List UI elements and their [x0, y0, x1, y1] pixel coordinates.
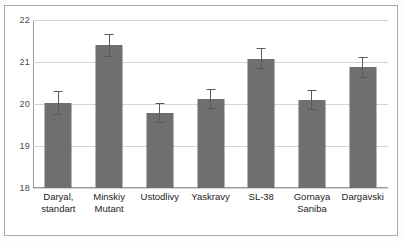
- bar-group[interactable]: [84, 20, 135, 188]
- error-bar-cap-top: [257, 48, 266, 49]
- bar-group[interactable]: [236, 20, 287, 188]
- y-tick-label-20: 20: [4, 99, 30, 109]
- bar[interactable]: [248, 59, 275, 188]
- error-bar: [105, 34, 114, 57]
- bar[interactable]: [146, 113, 173, 188]
- error-bar-stem: [261, 48, 262, 69]
- error-bar-cap-top: [54, 91, 63, 92]
- bar[interactable]: [96, 45, 123, 188]
- bar[interactable]: [197, 99, 224, 188]
- error-bar-cap-bottom: [307, 109, 316, 110]
- x-tick-label: GornayaSaniba: [287, 191, 338, 225]
- error-bar-stem: [311, 90, 312, 110]
- x-tick-label: Daryal,standart: [33, 191, 84, 225]
- bar[interactable]: [298, 100, 325, 188]
- error-bar: [155, 103, 164, 123]
- gridline-18: [33, 188, 388, 189]
- error-bar-cap-top: [105, 34, 114, 35]
- error-bar-stem: [58, 91, 59, 115]
- error-bar-cap-bottom: [105, 56, 114, 57]
- error-bar: [54, 91, 63, 115]
- error-bar: [358, 57, 367, 78]
- bar-group[interactable]: [185, 20, 236, 188]
- bar[interactable]: [45, 103, 72, 188]
- error-bar-cap-top: [155, 103, 164, 104]
- bar-group[interactable]: [337, 20, 388, 188]
- error-bar: [257, 48, 266, 69]
- error-bar-cap-top: [358, 57, 367, 58]
- y-tick-label-21: 21: [4, 57, 30, 67]
- error-bar-cap-bottom: [155, 122, 164, 123]
- bars-layer: [33, 20, 388, 188]
- y-axis-tick-labels: 1819202122: [0, 20, 30, 188]
- error-bar-cap-top: [307, 90, 316, 91]
- bar[interactable]: [349, 67, 376, 188]
- error-bar-stem: [109, 34, 110, 57]
- error-bar-stem: [362, 57, 363, 78]
- bar-group[interactable]: [33, 20, 84, 188]
- x-tick-label: Yaskravy: [185, 191, 236, 225]
- bar-group[interactable]: [287, 20, 338, 188]
- y-tick-label-18: 18: [4, 183, 30, 193]
- error-bar: [307, 90, 316, 110]
- chart-figure: 1819202122 Daryal,standartMinskiyMutantU…: [0, 0, 403, 241]
- x-tick-label: Dargavski: [337, 191, 388, 225]
- error-bar-stem: [159, 103, 160, 123]
- y-tick-label-22: 22: [4, 15, 30, 25]
- y-tick-label-19: 19: [4, 141, 30, 151]
- x-tick-label: Ustodlivy: [134, 191, 185, 225]
- error-bar-stem: [210, 89, 211, 109]
- x-tick-label: SL-38: [236, 191, 287, 225]
- error-bar-cap-top: [206, 89, 215, 90]
- error-bar-cap-bottom: [257, 68, 266, 69]
- error-bar-cap-bottom: [54, 114, 63, 115]
- error-bar-cap-bottom: [358, 77, 367, 78]
- bar-group[interactable]: [134, 20, 185, 188]
- error-bar-cap-bottom: [206, 108, 215, 109]
- x-tick-label: MinskiyMutant: [84, 191, 135, 225]
- x-axis-category-labels: Daryal,standartMinskiyMutantUstodlivyYas…: [33, 191, 388, 225]
- error-bar: [206, 89, 215, 109]
